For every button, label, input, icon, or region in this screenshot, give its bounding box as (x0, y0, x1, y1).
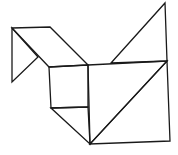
body-square (49, 65, 88, 108)
tail-triangle (111, 3, 167, 63)
bottom-large-triangle (90, 61, 170, 144)
neck-parallelogram (12, 27, 88, 67)
lower-small-triangle (51, 107, 90, 144)
tangram-pieces (12, 3, 170, 144)
tangram-svg (0, 0, 178, 155)
tangram-diagram (0, 0, 178, 155)
head-triangle (12, 28, 38, 82)
